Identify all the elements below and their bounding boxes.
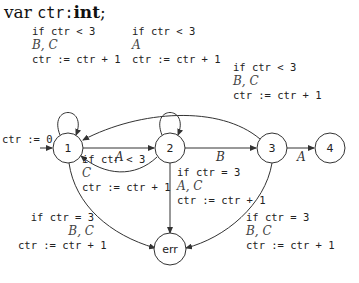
- events: B, C: [246, 224, 335, 238]
- events: A, C: [177, 179, 266, 193]
- state-3-label: 3: [269, 142, 276, 155]
- action: ctr := ctr + 1: [177, 193, 266, 207]
- action: ctr := ctr + 1: [82, 180, 171, 194]
- label-self-2: if ctr < 3 A ctr := ctr + 1: [132, 24, 221, 66]
- label-3-to-4: A: [297, 150, 306, 164]
- label-2-to-err: if ctr = 3 A, C ctr := ctr + 1: [177, 165, 266, 207]
- events: C: [82, 166, 171, 180]
- cond: if ctr = 3: [18, 210, 94, 224]
- state-4-label: 4: [327, 142, 334, 155]
- cond: if ctr < 3: [32, 24, 121, 38]
- action: ctr := ctr + 1: [233, 88, 322, 102]
- events: A: [132, 38, 221, 52]
- state-err-label: err: [162, 243, 178, 256]
- action: ctr := ctr + 1: [32, 52, 121, 66]
- cond: if ctr < 3: [132, 24, 221, 38]
- initial-label: ctr := 0: [2, 133, 53, 145]
- events: B, C: [18, 224, 94, 238]
- state-1-label: 1: [65, 142, 72, 155]
- events: B, C: [32, 38, 121, 52]
- cond: if ctr = 3: [246, 210, 335, 224]
- action: ctr := ctr + 1: [18, 238, 94, 252]
- action: ctr := ctr + 1: [132, 52, 221, 66]
- label-self-1: if ctr < 3 B, C ctr := ctr + 1: [32, 24, 121, 66]
- label-3-to-err: if ctr = 3 B, C ctr := ctr + 1: [246, 210, 335, 252]
- label-2-to-3: B: [216, 150, 225, 164]
- cond: if ctr < 3: [82, 152, 171, 166]
- label-1-to-err: if ctr = 3 B, C ctr := ctr + 1: [18, 210, 94, 252]
- action: ctr := ctr + 1: [246, 238, 335, 252]
- cond: if ctr < 3: [233, 60, 322, 74]
- cond: if ctr = 3: [177, 165, 266, 179]
- events: B, C: [233, 74, 322, 88]
- label-3-to-1: if ctr < 3 B, C ctr := ctr + 1: [233, 60, 322, 102]
- label-2-to-1: if ctr < 3 C ctr := ctr + 1: [82, 152, 171, 194]
- edge-self-1: [58, 113, 79, 136]
